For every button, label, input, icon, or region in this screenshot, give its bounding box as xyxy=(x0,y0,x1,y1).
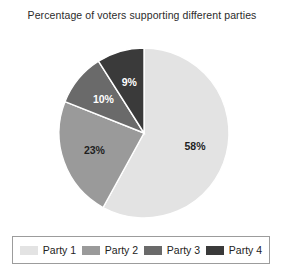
legend-color-swatch xyxy=(82,246,100,255)
legend-item-label: Party 4 xyxy=(229,245,262,256)
legend-color-swatch xyxy=(144,246,162,255)
pie-chart-figure: Percentage of voters supporting differen… xyxy=(0,0,284,272)
legend-item[interactable]: Party 4 xyxy=(206,245,262,256)
legend-item-label: Party 3 xyxy=(167,245,200,256)
pie-slice-value-label: 10% xyxy=(93,93,115,105)
legend-item-label: Party 2 xyxy=(105,245,138,256)
pie-slice-value-label: 9% xyxy=(122,76,138,88)
legend-item[interactable]: Party 2 xyxy=(82,245,138,256)
legend-item[interactable]: Party 3 xyxy=(144,245,200,256)
pie-slice-value-label: 58% xyxy=(184,140,206,152)
pie-svg: 58%23%10%9% xyxy=(0,0,284,232)
pie-slice-group xyxy=(59,48,229,218)
legend-color-swatch xyxy=(206,246,224,255)
pie-slice-value-label: 23% xyxy=(84,144,106,156)
chart-legend: Party 1Party 2Party 3Party 4 xyxy=(12,236,270,264)
legend-item[interactable]: Party 1 xyxy=(20,245,76,256)
legend-color-swatch xyxy=(20,246,38,255)
pie-plot-area: 58%23%10%9% xyxy=(0,0,284,232)
legend-item-label: Party 1 xyxy=(43,245,76,256)
